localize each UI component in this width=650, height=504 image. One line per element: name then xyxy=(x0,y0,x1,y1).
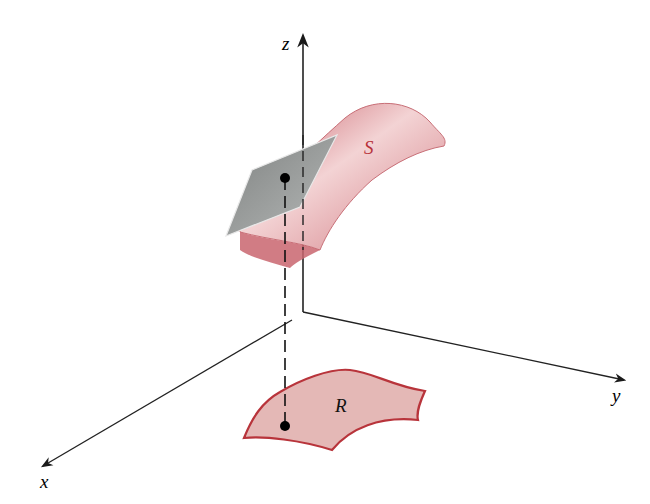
surface-point xyxy=(280,173,290,183)
surface-label: S xyxy=(364,138,374,157)
x-axis xyxy=(43,320,292,466)
x-axis-label: x xyxy=(40,472,48,491)
z-axis-label: z xyxy=(282,34,289,53)
region-point xyxy=(280,421,290,431)
surface-area-diagram xyxy=(0,0,650,504)
y-axis-label: y xyxy=(612,386,620,405)
region-label: R xyxy=(335,396,347,415)
